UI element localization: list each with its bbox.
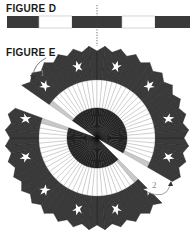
step-number-2: 2 bbox=[152, 180, 157, 190]
pleated-strip bbox=[7, 16, 190, 28]
diagram-canvas: 1 2 bbox=[0, 0, 195, 235]
fan-rosette bbox=[5, 46, 188, 229]
step-number-1: 1 bbox=[40, 68, 45, 78]
